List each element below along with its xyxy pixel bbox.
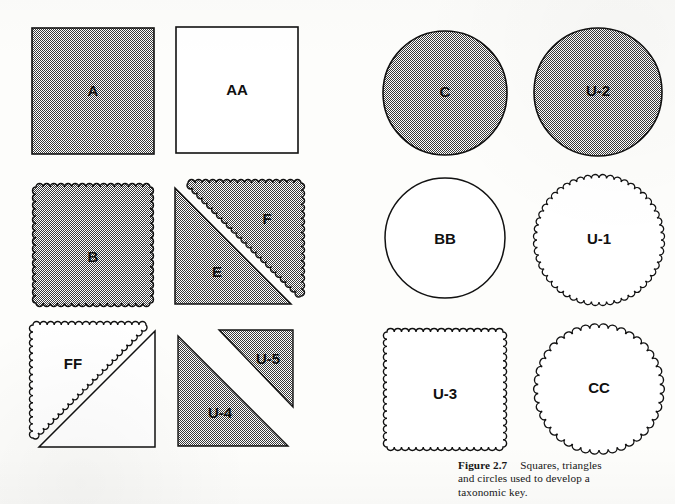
figure-number: Figure 2.7	[458, 459, 507, 471]
shape-e-label: E	[212, 263, 222, 280]
shape-aa: AA	[174, 25, 300, 155]
figure-caption-line-2: and circles used to develop a	[458, 472, 590, 484]
shape-cc-label: CC	[588, 379, 610, 396]
shape-u3: U-3	[379, 325, 511, 455]
figure-caption: Figure 2.7Squares, triangles and circles…	[458, 459, 670, 499]
shape-ff-pair: FF	[28, 320, 162, 452]
figure-2-7: A AA B F E FF	[0, 0, 675, 504]
shape-bb-label: BB	[434, 230, 456, 247]
shape-e-f-pair: F E	[172, 178, 306, 310]
shape-b: B	[29, 180, 157, 310]
figure-caption-line-1: Squares, triangles	[520, 459, 601, 471]
shape-a: A	[30, 26, 156, 156]
shape-bb: BB	[382, 172, 510, 306]
shape-b-label: B	[88, 248, 99, 265]
shape-u4-u5-pair: U-5 U-4	[172, 320, 306, 452]
shape-f-label: F	[262, 210, 271, 227]
shape-cc: CC	[533, 323, 665, 455]
shape-u5-label: U-5	[256, 350, 280, 367]
shape-u4-label: U-4	[208, 404, 233, 421]
shape-u2-label: U-2	[586, 82, 610, 99]
shape-ff-label: FF	[64, 355, 82, 372]
shape-c: C	[381, 29, 511, 159]
shape-a-label: A	[88, 82, 99, 99]
shape-u1: U-1	[533, 172, 665, 308]
square-b-outline	[33, 183, 154, 306]
shape-c-label: C	[440, 83, 451, 100]
shape-u3-label: U-3	[433, 385, 457, 402]
shape-u2: U-2	[532, 26, 666, 160]
figure-caption-line-3: taxonomic key.	[458, 486, 528, 498]
shape-u1-label: U-1	[587, 230, 611, 247]
shape-aa-label: AA	[226, 81, 248, 98]
